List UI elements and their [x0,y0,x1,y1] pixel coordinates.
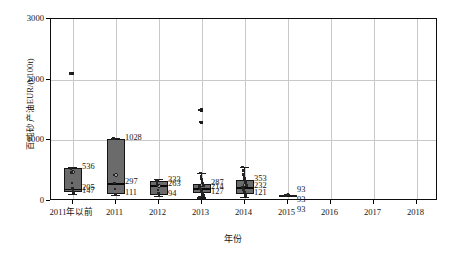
y-tick-mark [46,139,50,140]
whisker-cap-lower [68,194,78,195]
y-tick-mark [46,18,50,19]
x-tick-mark [287,200,288,204]
y-tick-label: 0 [10,195,44,205]
value-label-upper: 93 [297,185,305,194]
y-tick-mark [46,200,50,201]
gridline-vertical [417,19,418,199]
data-point [113,182,116,185]
x-tick-mark [72,200,73,204]
data-point [202,184,205,187]
y-tick-mark [46,79,50,80]
value-label-lower: 93 [297,205,305,214]
box-rect [107,139,125,195]
x-tick-label-2015: 2015 [278,207,295,217]
x-tick-mark [115,200,116,204]
data-point [70,171,73,174]
x-tick-mark [373,200,374,204]
value-label-upper: 536 [82,162,95,171]
data-point [199,172,202,175]
data-point [70,167,73,170]
value-label-median: 297 [125,177,138,186]
data-point [158,194,161,197]
data-point [198,196,201,199]
data-point [73,191,76,194]
data-point [71,182,74,185]
data-point [156,184,159,187]
data-point [242,169,245,172]
outlier-point [200,121,203,124]
x-tick-mark [244,200,245,204]
value-label-median: 263 [168,179,181,188]
gridline-vertical [374,19,375,199]
y-axis-title: 百吨砂产油EUR/(t/100t) [23,29,35,179]
y-tick-label: 3000 [10,13,44,23]
x-tick-mark [201,200,202,204]
data-point [245,195,248,198]
x-tick-label-2012: 2012 [149,207,166,217]
x-tick-mark [330,200,331,204]
value-label-median: 93 [297,195,305,204]
y-tick-label: 1000 [10,134,44,144]
plot-area [50,18,437,200]
gridline-vertical [331,19,332,199]
data-point [284,194,287,197]
outlier-point [200,108,203,111]
value-label-lower: 147 [82,186,95,195]
gridline-horizontal [51,80,436,81]
x-tick-label-2018: 2018 [407,207,424,217]
value-label-lower: 111 [125,188,137,197]
gridline-vertical [159,19,160,199]
x-tick-mark [158,200,159,204]
x-axis-title: 年份 [0,232,465,245]
data-point [245,184,248,187]
x-tick-label-2011: 2011 [106,207,123,217]
gridline-vertical [288,19,289,199]
x-tick-label-2013: 2013 [192,207,209,217]
data-point [112,137,115,140]
data-point [241,166,244,169]
value-label-lower: 94 [168,189,176,198]
outlier-point [71,72,74,75]
x-tick-label-2017: 2017 [364,207,381,217]
boxplot-figure: 百吨砂产油EUR/(t/100t) 年份 01000200030002011年以… [0,0,465,268]
value-label-lower: 127 [211,187,224,196]
x-tick-label-2016: 2016 [321,207,338,217]
value-label-upper: 1028 [125,133,142,142]
data-point [114,188,117,191]
x-tick-label-2014: 2014 [235,207,252,217]
value-label-lower: 121 [254,188,267,197]
y-tick-label: 2000 [10,74,44,84]
data-point [157,189,160,192]
x-tick-mark [416,200,417,204]
x-tick-label-2011年以前: 2011年以前 [50,207,94,217]
data-point [113,174,116,177]
data-point [202,194,205,197]
data-point [114,193,117,196]
